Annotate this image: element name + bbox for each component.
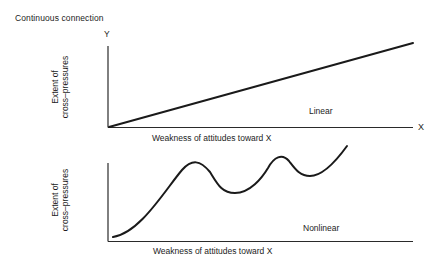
nonlinear-x-axis-label: Weakness of attitudes toward X bbox=[153, 246, 272, 256]
linear-panel bbox=[108, 43, 413, 128]
linear-y-axis-label: Extent of cross–pressures bbox=[50, 47, 70, 127]
nonlinear-curve-label: Nonlinear bbox=[303, 223, 339, 233]
ylabel-line2: cross–pressures bbox=[60, 160, 70, 240]
y-axis-letter: Y bbox=[104, 29, 110, 39]
ylabel-line1: Extent of bbox=[50, 47, 60, 127]
nonlinear-y-axis-label: Extent of cross–pressures bbox=[50, 160, 70, 240]
x-axis-letter: X bbox=[418, 122, 424, 132]
ylabel-line1: Extent of bbox=[50, 160, 60, 240]
ylabel-line2: cross–pressures bbox=[60, 47, 70, 127]
nonlinear-panel bbox=[108, 146, 413, 242]
linear-x-axis-label: Weakness of attitudes toward X bbox=[152, 133, 271, 143]
linear-curve-label: Linear bbox=[309, 106, 333, 116]
linear-curve bbox=[109, 43, 413, 127]
